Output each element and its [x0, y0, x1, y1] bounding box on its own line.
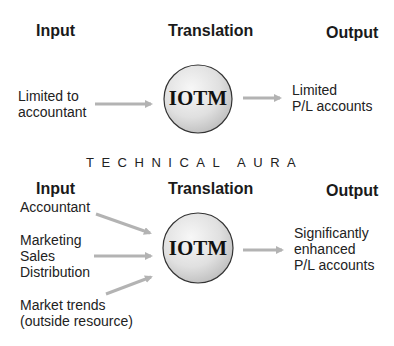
top-input-header: Input: [36, 22, 75, 40]
bottom-output-header: Output: [326, 182, 378, 200]
bottom-input-accountant: Accountant: [20, 199, 90, 215]
top-input-label: Limited to accountant: [18, 88, 87, 120]
technical-aura-title: TECHNICAL AURA: [86, 155, 303, 170]
bottom-input-arrow-accountant: [96, 214, 150, 233]
diagram-graphics: [0, 0, 394, 346]
bottom-input-marketing-sales-distribution: Marketing Sales Distribution: [20, 232, 90, 280]
bottom-input-header: Input: [36, 180, 75, 198]
bottom-translation-header: Translation: [168, 180, 253, 198]
top-output-label: Limited P/L accounts: [292, 82, 372, 114]
top-node-label: IOTM: [163, 86, 233, 111]
bottom-output-label: Significantly enhanced P/L accounts: [294, 225, 374, 273]
bottom-input-arrow-market-trends: [106, 277, 151, 294]
bottom-input-market-trends: Market trends (outside resource): [20, 297, 133, 329]
bottom-node-label: IOTM: [163, 236, 233, 261]
top-output-header: Output: [326, 24, 378, 42]
top-translation-header: Translation: [168, 22, 253, 40]
